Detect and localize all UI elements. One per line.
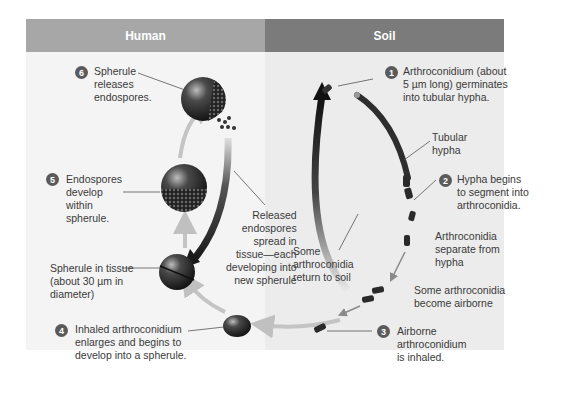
step-4-label: Inhaled arthroconidium enlarges and begi…: [75, 323, 187, 362]
spherule-tissue-icon: [159, 254, 195, 290]
tubular-hypha-label: Tubular hypha: [432, 131, 467, 157]
step-5-badge: 5: [46, 173, 59, 186]
step-6-label: Spherule releases endospores.: [94, 65, 152, 104]
tubular-hypha: [357, 95, 408, 178]
step-2-label: Hypha begins to segment into arthroconid…: [457, 173, 529, 212]
enlarging-arthroconidium-icon: [223, 315, 251, 337]
step-1-label: Arthroconidium (about 5 µm long) germina…: [403, 65, 508, 104]
arthroconidia-separate-label: Arthroconidia separate from hypha: [435, 230, 500, 269]
spherule-tissue-label: Spherule in tissue (about 30 µm in diame…: [50, 262, 133, 301]
step-6-badge: 6: [75, 66, 88, 79]
step-3-badge: 3: [377, 325, 390, 338]
released-endospores-label: Released endospores spread in tissue—eac…: [226, 209, 297, 287]
step-5-label: Endospores develop within spherule.: [66, 173, 122, 225]
return-to-soil-label: Some arthroconidia return to soil: [293, 245, 354, 284]
step-4-badge: 4: [55, 324, 68, 337]
spherule-endospores-icon: [161, 164, 207, 212]
airborne-label: Some arthroconidia become airborne: [414, 284, 505, 310]
step-3-label: Airborne arthroconidium is inhaled.: [397, 325, 466, 364]
step-2-badge: 2: [439, 174, 452, 187]
step-1-badge: 1: [385, 66, 398, 79]
